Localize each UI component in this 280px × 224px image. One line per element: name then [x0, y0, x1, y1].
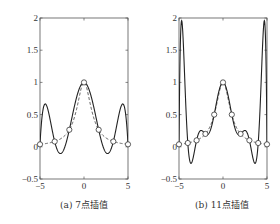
plot-b: −0.500.511.52−505 — [161, 13, 270, 191]
y-tick-label: 1.5 — [166, 45, 178, 55]
interpolation-node — [37, 142, 42, 147]
y-tick-label: 1.5 — [27, 45, 39, 55]
interpolation-node — [52, 139, 57, 144]
y-tick-label: 2 — [34, 13, 39, 23]
interpolation-node — [111, 139, 116, 144]
x-tick-label: 5 — [126, 181, 131, 191]
interpolation-node — [220, 80, 225, 85]
chart-canvas: −0.500.511.52−505−0.500.511.52−505 — [0, 0, 280, 224]
interpolation-node — [185, 140, 190, 145]
interpolation-node — [256, 140, 261, 145]
interpolation-node — [264, 142, 269, 147]
caption-b: (b) 11点插值 — [195, 198, 249, 211]
interpolation-node — [96, 127, 101, 132]
x-tick-label: −5 — [35, 181, 45, 191]
interpolation-node — [203, 131, 208, 136]
axes-frame — [40, 18, 128, 179]
interpolation-node — [67, 127, 72, 132]
plot-a: −0.500.511.52−505 — [22, 13, 131, 191]
caption-a: (a) 7点插值 — [60, 198, 108, 211]
x-tick-label: 5 — [265, 181, 270, 191]
x-tick-label: 0 — [221, 181, 226, 191]
interpolation-node — [238, 131, 243, 136]
interpolation-node — [176, 142, 181, 147]
y-tick-label: 1 — [34, 77, 39, 87]
runge-function-curve — [179, 82, 267, 144]
interpolation-node — [247, 138, 252, 143]
y-tick-label: 1 — [173, 77, 178, 87]
interpolation-node — [229, 112, 234, 117]
x-tick-label: −5 — [174, 181, 184, 191]
interpolation-node — [81, 80, 86, 85]
axes-frame — [179, 18, 267, 179]
y-tick-label: 2 — [173, 13, 178, 23]
y-tick-label: 0.5 — [27, 110, 39, 120]
y-tick-label: 0.5 — [166, 110, 178, 120]
interpolation-node — [194, 138, 199, 143]
interpolation-node — [125, 142, 130, 147]
x-tick-label: 0 — [82, 181, 87, 191]
interpolation-node — [212, 112, 217, 117]
